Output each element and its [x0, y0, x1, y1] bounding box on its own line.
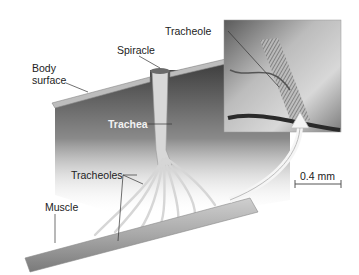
label-trachea: Trachea: [108, 118, 148, 130]
label-body-surface-line1: Body: [32, 62, 56, 74]
scale-bar-label: 0.4 mm: [300, 170, 335, 182]
label-body-surface-line2: surface: [32, 74, 66, 86]
label-spiracle: Spiracle: [117, 44, 155, 56]
label-muscle: Muscle: [45, 201, 78, 213]
label-tracheole: Tracheole: [165, 25, 211, 37]
tracheal-system-diagram: Body surface Spiracle Trachea Tracheoles…: [0, 0, 359, 275]
label-tracheoles: Tracheoles: [71, 169, 123, 181]
spiracle-opening: [150, 68, 170, 74]
diagram-artwork: [0, 0, 359, 275]
